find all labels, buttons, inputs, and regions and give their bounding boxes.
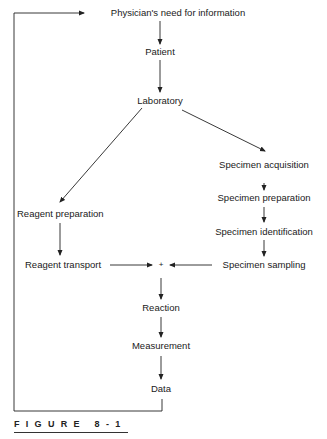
node-specimen-identification: Specimen identification: [215, 227, 313, 237]
node-specimen-acquisition: Specimen acquisition: [219, 160, 309, 170]
node-specimen-sampling: Specimen sampling: [223, 260, 306, 270]
node-reagent-preparation: Reagent preparation: [17, 209, 104, 219]
flow-connectors: [0, 0, 327, 439]
node-patient: Patient: [145, 47, 175, 57]
node-laboratory: Laboratory: [137, 96, 182, 106]
figure-caption-label: FIGURE 8-1: [14, 419, 127, 429]
caption-underline: [14, 432, 128, 433]
node-combine-plus: +: [159, 261, 164, 269]
node-data: Data: [151, 384, 171, 394]
node-measurement: Measurement: [132, 341, 190, 351]
node-reagent-transport: Reagent transport: [25, 260, 101, 270]
node-physician-need: Physician's need for information: [111, 8, 245, 18]
node-reaction: Reaction: [142, 303, 180, 313]
node-specimen-preparation: Specimen preparation: [218, 193, 311, 203]
